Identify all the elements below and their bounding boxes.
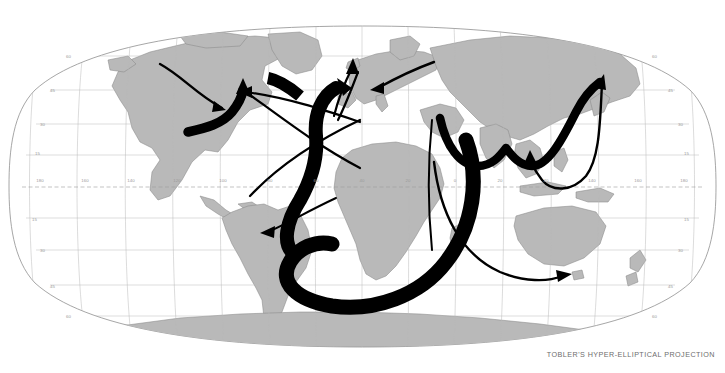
lat-label-right: 15 (684, 217, 689, 222)
lat-label-left: 15 (32, 217, 37, 222)
lat-label-left: 30 (40, 122, 45, 127)
lon-label: 20 (498, 178, 503, 183)
projection-caption: TOBLER'S HYPER-ELLIPTICAL PROJECTION (547, 350, 715, 359)
land-tasmania (572, 270, 584, 280)
lat-label-left: 30 (40, 248, 45, 253)
lat-label-left: 45 (50, 88, 55, 93)
lon-label: 160 (81, 178, 89, 183)
lat-label-left: 60 (66, 54, 71, 59)
lon-label: 100 (219, 178, 227, 183)
lon-label: 40 (544, 178, 549, 183)
world-map-figure: 180 160 140 120 100 80 60 40 20 0 20 40 … (0, 0, 725, 373)
lat-label-left: 15 (35, 151, 40, 156)
lon-label: 20 (406, 178, 411, 183)
lon-label: 140 (127, 178, 135, 183)
lat-label-right: 45 (668, 284, 673, 289)
lat-label-right: 60 (652, 314, 657, 319)
lon-label: 120 (173, 178, 181, 183)
lat-label-right: 30 (678, 248, 683, 253)
lat-label-left: 45 (50, 284, 55, 289)
lat-label-right: 45 (668, 88, 673, 93)
lon-label: 180 (680, 178, 688, 183)
lon-label: 60 (314, 178, 319, 183)
lat-label-right: 60 (652, 54, 657, 59)
lon-label: 180 (36, 178, 44, 183)
lon-label: 40 (360, 178, 365, 183)
lon-label: 80 (268, 178, 273, 183)
lat-label-right: 15 (684, 151, 689, 156)
lon-label: 160 (634, 178, 642, 183)
lat-label-left: 60 (66, 314, 71, 319)
map-canvas: 180 160 140 120 100 80 60 40 20 0 20 40 … (0, 0, 725, 373)
lat-label-right: 30 (678, 122, 683, 127)
lon-label: 140 (588, 178, 596, 183)
